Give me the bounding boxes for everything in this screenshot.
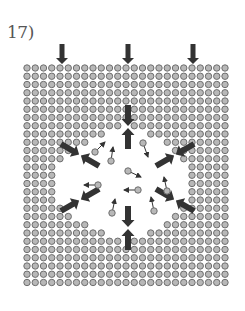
- particle: [98, 230, 104, 236]
- particle: [24, 222, 30, 228]
- particle: [98, 98, 104, 104]
- particle: [49, 246, 55, 252]
- particle: [205, 255, 211, 261]
- particle: [40, 164, 46, 170]
- particle: [197, 189, 203, 195]
- particle: [49, 279, 55, 285]
- particle: [32, 271, 38, 277]
- particle: [49, 271, 55, 277]
- particle: [181, 213, 187, 219]
- mobile-particle: [109, 210, 115, 216]
- particle: [49, 90, 55, 96]
- particle: [214, 255, 220, 261]
- particle: [98, 246, 104, 252]
- particle: [156, 106, 162, 112]
- particle: [24, 147, 30, 153]
- particle: [49, 238, 55, 244]
- particle: [115, 271, 121, 277]
- particle: [73, 139, 79, 145]
- particle: [197, 147, 203, 153]
- particle: [197, 73, 203, 79]
- particle: [115, 255, 121, 261]
- particle: [32, 65, 38, 71]
- particle: [57, 156, 63, 162]
- particle: [205, 65, 211, 71]
- particle: [82, 255, 88, 261]
- particle: [115, 114, 121, 120]
- particle: [24, 73, 30, 79]
- particle: [90, 81, 96, 87]
- particle: [214, 197, 220, 203]
- particle: [197, 279, 203, 285]
- particle: [181, 222, 187, 228]
- particle: [90, 98, 96, 104]
- particle: [65, 98, 71, 104]
- particle: [172, 81, 178, 87]
- particle: [172, 65, 178, 71]
- particle: [57, 131, 63, 137]
- mobile-particle: [151, 208, 157, 214]
- particle: [57, 230, 63, 236]
- particle: [172, 98, 178, 104]
- particle: [214, 123, 220, 129]
- particle: [49, 230, 55, 236]
- particle: [205, 139, 211, 145]
- particle: [148, 131, 154, 137]
- particle: [181, 131, 187, 137]
- particle: [106, 90, 112, 96]
- particle: [181, 73, 187, 79]
- particle: [49, 106, 55, 112]
- particle: [90, 65, 96, 71]
- particle: [32, 172, 38, 178]
- particle: [181, 90, 187, 96]
- particle: [65, 131, 71, 137]
- particle: [164, 279, 170, 285]
- particle: [214, 156, 220, 162]
- particle: [82, 73, 88, 79]
- particle: [24, 246, 30, 252]
- particle: [49, 131, 55, 137]
- particle: [40, 73, 46, 79]
- particle: [197, 106, 203, 112]
- particle: [24, 114, 30, 120]
- particle: [32, 246, 38, 252]
- particle: [32, 131, 38, 137]
- particle: [65, 230, 71, 236]
- particle: [181, 106, 187, 112]
- particle: [32, 197, 38, 203]
- particle: [222, 106, 228, 112]
- particle: [214, 271, 220, 277]
- particle: [181, 156, 187, 162]
- down-arrow-icon: [56, 44, 68, 64]
- particle: [40, 114, 46, 120]
- particle-lattice: [24, 65, 228, 286]
- particle: [32, 230, 38, 236]
- particle: [40, 81, 46, 87]
- particle: [57, 106, 63, 112]
- particle: [82, 279, 88, 285]
- particle: [222, 263, 228, 269]
- particle: [73, 90, 79, 96]
- particle: [156, 255, 162, 261]
- particle: [65, 123, 71, 129]
- mobile-particles: [84, 140, 170, 216]
- particle: [40, 156, 46, 162]
- particle: [73, 123, 79, 129]
- particle: [40, 246, 46, 252]
- particle: [156, 271, 162, 277]
- particle: [222, 271, 228, 277]
- particle: [65, 246, 71, 252]
- particle: [57, 222, 63, 228]
- particle: [205, 73, 211, 79]
- particle: [222, 81, 228, 87]
- particle: [222, 139, 228, 145]
- particle: [115, 263, 121, 269]
- particle: [40, 139, 46, 145]
- particle: [90, 255, 96, 261]
- particle: [214, 139, 220, 145]
- particle: [24, 213, 30, 219]
- particle: [164, 230, 170, 236]
- particle: [49, 263, 55, 269]
- particle: [214, 131, 220, 137]
- particle: [131, 65, 137, 71]
